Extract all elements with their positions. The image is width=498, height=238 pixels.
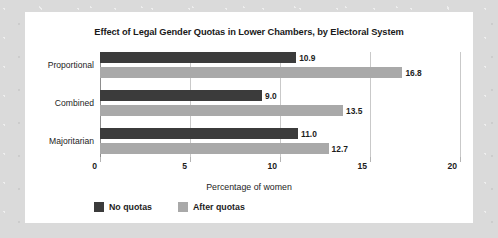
figure-root: Effect of Legal Gender Quotas in Lower C… — [0, 0, 498, 238]
x-axis-ticks: 05101520 — [100, 157, 460, 179]
bar-majoritarian-no-quotas — [100, 128, 298, 139]
x-tick-label-0: 0 — [92, 161, 100, 171]
category-label-combined: Combined — [55, 98, 94, 108]
x-tick-label-15: 15 — [357, 161, 370, 171]
bar-majoritarian-after-quotas — [100, 143, 329, 154]
bar-value-combined-no-quotas: 9.0 — [262, 91, 277, 101]
bar-value-proportional-after-quotas: 16.8 — [402, 68, 421, 78]
category-label-proportional: Proportional — [48, 60, 94, 70]
tick-mark-0 — [100, 157, 101, 162]
x-tick-label-20: 20 — [447, 161, 460, 171]
category-axis-labels: ProportionalCombinedMajoritarian — [25, 52, 100, 157]
tick-mark-10 — [280, 157, 281, 162]
legend-label: After quotas — [193, 202, 245, 212]
chart-legend: No quotasAfter quotas — [94, 202, 245, 212]
bar-value-majoritarian-no-quotas: 11.0 — [298, 129, 317, 139]
tick-mark-15 — [370, 157, 371, 162]
legend-item-after-quotas[interactable]: After quotas — [178, 202, 245, 212]
x-axis-title: Percentage of women — [25, 182, 473, 192]
legend-swatch-icon — [178, 202, 188, 212]
chart-title: Effect of Legal Gender Quotas in Lower C… — [25, 27, 473, 37]
bar-proportional-no-quotas — [100, 52, 296, 63]
plot-area: 10.916.89.013.511.012.7 05101520 — [100, 52, 460, 157]
bar-value-combined-after-quotas: 13.5 — [343, 106, 362, 116]
x-tick-label-10: 10 — [267, 161, 280, 171]
category-label-majoritarian: Majoritarian — [49, 136, 94, 146]
chart-panel: Effect of Legal Gender Quotas in Lower C… — [25, 12, 473, 223]
bar-group-proportional: 10.916.8 — [100, 52, 460, 78]
bar-group-combined: 9.013.5 — [100, 90, 460, 116]
bar-value-majoritarian-after-quotas: 12.7 — [329, 144, 348, 154]
bar-combined-after-quotas — [100, 105, 343, 116]
bar-value-proportional-no-quotas: 10.9 — [296, 53, 315, 63]
legend-item-no-quotas[interactable]: No quotas — [94, 202, 152, 212]
legend-label: No quotas — [109, 202, 152, 212]
x-tick-label-5: 5 — [182, 161, 190, 171]
gridline-20 — [460, 52, 461, 157]
tick-mark-20 — [460, 157, 461, 162]
bar-group-majoritarian: 11.012.7 — [100, 128, 460, 154]
legend-swatch-icon — [94, 202, 104, 212]
tick-mark-5 — [190, 157, 191, 162]
bar-combined-no-quotas — [100, 90, 262, 101]
bar-proportional-after-quotas — [100, 67, 402, 78]
